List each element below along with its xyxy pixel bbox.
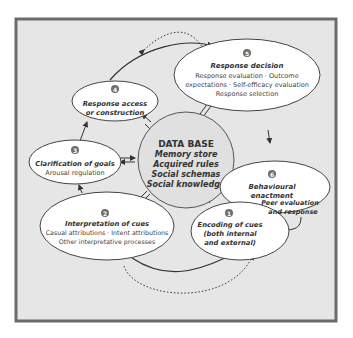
svg-text:Casual attributions · Intent a: Casual attributions · Intent attribution… bbox=[46, 229, 169, 236]
step-badge: 4 bbox=[113, 86, 117, 93]
step-badge: 3 bbox=[73, 147, 77, 154]
step-badge: 1 bbox=[227, 210, 231, 217]
node-4-response-access: 4 Response access or construction bbox=[72, 81, 158, 121]
step-badge: 6 bbox=[270, 171, 274, 178]
database-item: Acquired rules bbox=[152, 160, 219, 169]
database-title: DATA BASE bbox=[158, 139, 214, 149]
step-badge: 5 bbox=[245, 50, 249, 57]
svg-text:Response evaluation · Outcome: Response evaluation · Outcome bbox=[195, 72, 298, 80]
peer-evaluation-label: and response bbox=[268, 208, 318, 216]
svg-text:or construction: or construction bbox=[86, 109, 145, 117]
svg-text:Interpretation of cues: Interpretation of cues bbox=[65, 220, 149, 228]
step-badge: 2 bbox=[103, 210, 107, 217]
node-5-response-decision: 5 Response decision Response evaluation … bbox=[174, 39, 320, 111]
database-item: Social schemas bbox=[152, 170, 221, 179]
database-node: DATA BASE Memory store Acquired rules So… bbox=[138, 112, 234, 208]
node-2-interpretation-of-cues: 2 Interpretation of cues Casual attribut… bbox=[40, 192, 174, 260]
svg-text:Response selection: Response selection bbox=[216, 90, 279, 98]
svg-text:and external): and external) bbox=[204, 239, 256, 247]
svg-text:Response access: Response access bbox=[83, 100, 147, 108]
svg-text:Clarification of goals: Clarification of goals bbox=[35, 160, 115, 168]
svg-text:Behavioural: Behavioural bbox=[248, 183, 296, 191]
database-item: Memory store bbox=[155, 150, 218, 159]
database-item: Social knowledge bbox=[147, 180, 226, 189]
svg-text:expectations · Self-efficacy e: expectations · Self-efficacy evaluation bbox=[185, 81, 309, 89]
node-3-clarification-of-goals: 3 Clarification of goals Arousal regulat… bbox=[29, 140, 121, 184]
svg-text:(both internal: (both internal bbox=[203, 230, 257, 238]
svg-text:Other interpretative processes: Other interpretative processes bbox=[59, 238, 155, 246]
social-information-processing-diagram: DATA BASE Memory store Acquired rules So… bbox=[0, 0, 353, 338]
peer-evaluation-label: Peer evaluation bbox=[261, 199, 319, 207]
svg-text:Arousal regulation: Arousal regulation bbox=[45, 169, 104, 177]
svg-text:Encoding of cues: Encoding of cues bbox=[198, 221, 263, 229]
svg-text:Response decision: Response decision bbox=[211, 62, 284, 70]
